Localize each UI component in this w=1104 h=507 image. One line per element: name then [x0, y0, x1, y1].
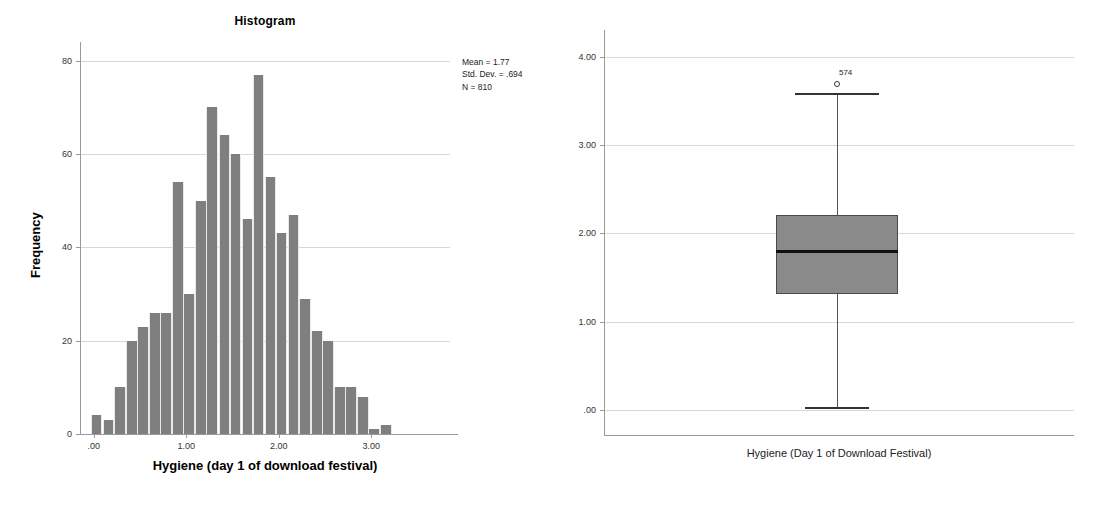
histogram-gridline — [80, 154, 450, 155]
histogram-stats-annotation: Mean = 1.77 Std. Dev. = .694 N = 810 — [462, 56, 523, 93]
histogram-bar — [195, 201, 207, 434]
histogram-x-tick-mark — [186, 434, 187, 438]
histogram-bar — [253, 75, 265, 434]
histogram-bar — [137, 327, 149, 434]
boxplot-gridline — [604, 410, 1074, 411]
histogram-y-tick-label: 20 — [50, 336, 72, 346]
histogram-bar — [345, 387, 357, 434]
boxplot-gridline — [604, 322, 1074, 323]
boxplot-x-axis-label: Hygiene (Day 1 of Download Festival) — [604, 447, 1074, 459]
histogram-y-tick-label: 60 — [50, 149, 72, 159]
boxplot-gridline — [604, 145, 1074, 146]
histogram-bar — [91, 415, 103, 434]
boxplot-outlier-label: 574 — [839, 68, 852, 77]
histogram-bar — [183, 294, 195, 434]
stats-mean: Mean = 1.77 — [462, 56, 523, 68]
boxplot-x-axis-line — [604, 435, 1074, 436]
histogram-bar — [357, 397, 369, 434]
stats-std-dev: Std. Dev. = .694 — [462, 68, 523, 80]
histogram-bar — [160, 313, 172, 434]
boxplot-y-tick-label: 3.00 — [568, 140, 596, 150]
histogram-title: Histogram — [80, 14, 450, 28]
histogram-bar — [103, 420, 115, 434]
histogram-x-tick-label: 3.00 — [363, 441, 381, 451]
boxplot-y-axis-line — [604, 30, 605, 435]
histogram-bar — [334, 387, 346, 434]
histogram-plot-area: 020406080.001.002.003.00 — [80, 42, 450, 434]
histogram-bar — [322, 341, 334, 434]
boxplot-median-line — [776, 250, 898, 253]
histogram-bar — [114, 387, 126, 434]
histogram-bar — [276, 233, 288, 434]
histogram-x-tick-mark — [371, 434, 372, 438]
histogram-bar — [149, 313, 161, 434]
histogram-panel: Histogram Frequency Hygiene (day 1 of do… — [0, 0, 552, 507]
histogram-x-axis-label: Hygiene (day 1 of download festival) — [80, 458, 450, 473]
histogram-x-tick-mark — [279, 434, 280, 438]
histogram-y-tick-label: 80 — [50, 56, 72, 66]
boxplot-y-tick-label: .00 — [568, 405, 596, 415]
boxplot-y-tick-label: 2.00 — [568, 228, 596, 238]
boxplot-y-tick-label: 4.00 — [568, 52, 596, 62]
boxplot-plot-area: .001.002.003.004.00574 — [604, 30, 1074, 435]
histogram-bar — [126, 341, 138, 434]
histogram-x-tick-label: 2.00 — [270, 441, 288, 451]
histogram-bar — [206, 107, 218, 434]
boxplot-gridline — [604, 57, 1074, 58]
histogram-bar — [311, 331, 323, 434]
histogram-bar — [242, 219, 254, 434]
histogram-bar — [230, 154, 242, 434]
boxplot-y-tick-label: 1.00 — [568, 317, 596, 327]
histogram-bar — [288, 215, 300, 434]
histogram-y-tick-label: 0 — [50, 429, 72, 439]
boxplot-panel: Hygiene (Day 1 of Download Festival) .00… — [552, 0, 1104, 507]
histogram-y-axis-line — [80, 42, 81, 434]
boxplot-box — [776, 215, 898, 295]
boxplot-lower-whisker-cap — [805, 407, 869, 409]
boxplot-upper-whisker-cap — [795, 93, 879, 95]
histogram-bar — [265, 177, 277, 434]
histogram-bar — [172, 182, 184, 434]
histogram-y-tick-label: 40 — [50, 242, 72, 252]
histogram-x-tick-mark — [94, 434, 95, 438]
histogram-bar — [380, 425, 392, 434]
histogram-x-tick-label: 1.00 — [178, 441, 196, 451]
stats-n: N = 810 — [462, 81, 523, 93]
histogram-bar — [219, 135, 231, 434]
histogram-gridline — [80, 61, 450, 62]
histogram-x-axis-line — [80, 434, 458, 435]
histogram-x-tick-label: .00 — [88, 441, 101, 451]
spss-output-page: Histogram Frequency Hygiene (day 1 of do… — [0, 0, 1104, 507]
boxplot-outlier-marker — [834, 81, 840, 87]
histogram-bar — [299, 299, 311, 434]
histogram-y-axis-label: Frequency — [28, 212, 43, 278]
